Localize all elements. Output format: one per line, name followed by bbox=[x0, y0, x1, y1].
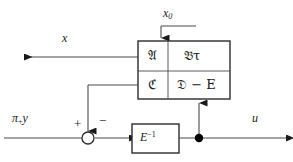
diagram-canvas: x0 x π+y + − u E−1 𝔄 𝔅τ ℭ 𝔇 − E bbox=[0, 0, 293, 162]
label-plus-sign: + bbox=[74, 117, 81, 130]
summing-junction bbox=[82, 132, 94, 144]
matrix-cell-C: ℭ bbox=[148, 78, 157, 91]
label-u-output: u bbox=[252, 112, 258, 124]
signal-c-feedback bbox=[88, 85, 138, 131]
matrix-cell-B-tau: 𝔅τ bbox=[184, 49, 200, 62]
label-minus-sign: − bbox=[99, 114, 106, 127]
label-pi-plus-y: π+y bbox=[12, 112, 28, 126]
matrix-cell-A: 𝔄 bbox=[148, 49, 157, 62]
label-x-output: x bbox=[62, 32, 67, 44]
branch-point bbox=[195, 134, 203, 142]
inverse-E-block-label: E−1 bbox=[140, 131, 156, 143]
signal-x0-input bbox=[161, 26, 196, 38]
matrix-cell-D-minus-E: 𝔇 − E bbox=[177, 78, 216, 91]
label-x0: x0 bbox=[163, 7, 172, 21]
